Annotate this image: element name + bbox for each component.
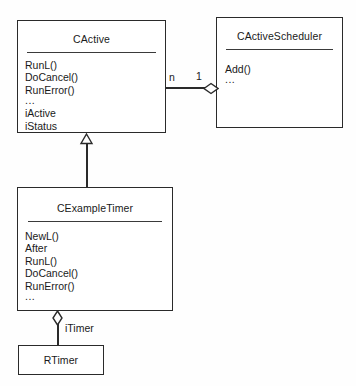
class-member: After — [25, 242, 172, 254]
class-member: RunL() — [25, 59, 165, 71]
class-member-ellipsis: ... — [25, 95, 165, 106]
class-title-separator — [27, 52, 156, 53]
class-name-cexampletimer: CExampleTimer — [18, 202, 172, 214]
class-member: DoCancel() — [25, 71, 165, 83]
class-member-ellipsis: ... — [225, 74, 342, 85]
class-name-cactive: CActive — [18, 33, 165, 45]
class-member-ellipsis: ... — [25, 291, 172, 302]
multiplicity-label-source: n — [169, 71, 175, 83]
class-name-cactivescheduler: CActiveScheduler — [217, 30, 342, 42]
class-member: NewL() — [25, 230, 172, 242]
uml-class-diagram: CActive RunL() DoCancel() RunError() ...… — [0, 0, 356, 386]
class-members-cexampletimer: NewL() After RunL() DoCancel() RunError(… — [25, 230, 172, 303]
class-box-cactivescheduler[interactable]: CActiveScheduler Add() ... — [216, 17, 343, 128]
class-box-cexampletimer[interactable]: CExampleTimer NewL() After RunL() DoCanc… — [17, 187, 173, 311]
class-member: iActive — [25, 107, 165, 119]
aggregation-diamond-icon — [203, 81, 219, 99]
class-members-cactivescheduler: Add() ... — [225, 63, 342, 86]
class-name-rtimer: RTimer — [19, 354, 103, 366]
class-member: DoCancel() — [25, 267, 172, 279]
association-line-cactive-cactivescheduler — [166, 87, 207, 89]
class-member: RunL() — [25, 255, 172, 267]
association-role-label-itimer: iTimer — [65, 322, 94, 334]
generalization-triangle-icon — [79, 131, 94, 149]
class-box-cactive[interactable]: CActive RunL() DoCancel() RunError() ...… — [17, 20, 166, 133]
class-member: iStatus — [25, 120, 165, 132]
class-box-rtimer[interactable]: RTimer — [18, 345, 104, 375]
class-title-separator — [226, 49, 333, 50]
multiplicity-label-target: 1 — [196, 70, 202, 82]
class-members-cactive: RunL() DoCancel() RunError() ... iActive… — [25, 59, 165, 132]
aggregation-diamond-icon — [51, 310, 64, 330]
class-title-separator — [28, 221, 162, 222]
